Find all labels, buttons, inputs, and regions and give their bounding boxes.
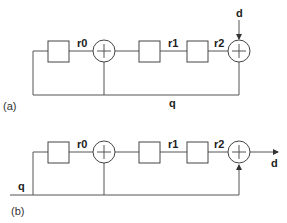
feedback-wire	[10, 165, 239, 195]
label-r1: r1	[168, 138, 178, 150]
register-box-r2	[187, 142, 208, 163]
xor-adder-icon	[93, 40, 115, 62]
caption-b: (b)	[11, 205, 24, 217]
register-box-r1	[139, 41, 160, 62]
register-box-r0	[48, 41, 69, 62]
xor-adder-icon	[228, 40, 250, 62]
label-r1: r1	[168, 37, 178, 49]
label-r2: r2	[214, 138, 224, 150]
label-r0: r0	[77, 138, 87, 150]
label-q: q	[169, 97, 176, 109]
label-r2: r2	[214, 37, 224, 49]
label-d-output: d	[271, 157, 278, 169]
lfsr-diagrams: r0 r1 r2 d q (a) r0 r1 r2 d	[0, 0, 287, 223]
diagram-b: r0 r1 r2 d q (b)	[10, 138, 278, 217]
register-box-r2	[187, 41, 208, 62]
xor-adder-icon	[228, 141, 250, 163]
label-r0: r0	[77, 37, 87, 49]
diagram-a: r0 r1 r2 d q (a)	[3, 7, 250, 112]
register-box-r1	[139, 142, 160, 163]
xor-adder-icon	[93, 141, 115, 163]
register-box-r0	[48, 142, 69, 163]
caption-a: (a)	[3, 100, 16, 112]
label-d-input: d	[236, 7, 243, 19]
label-q: q	[18, 180, 25, 192]
